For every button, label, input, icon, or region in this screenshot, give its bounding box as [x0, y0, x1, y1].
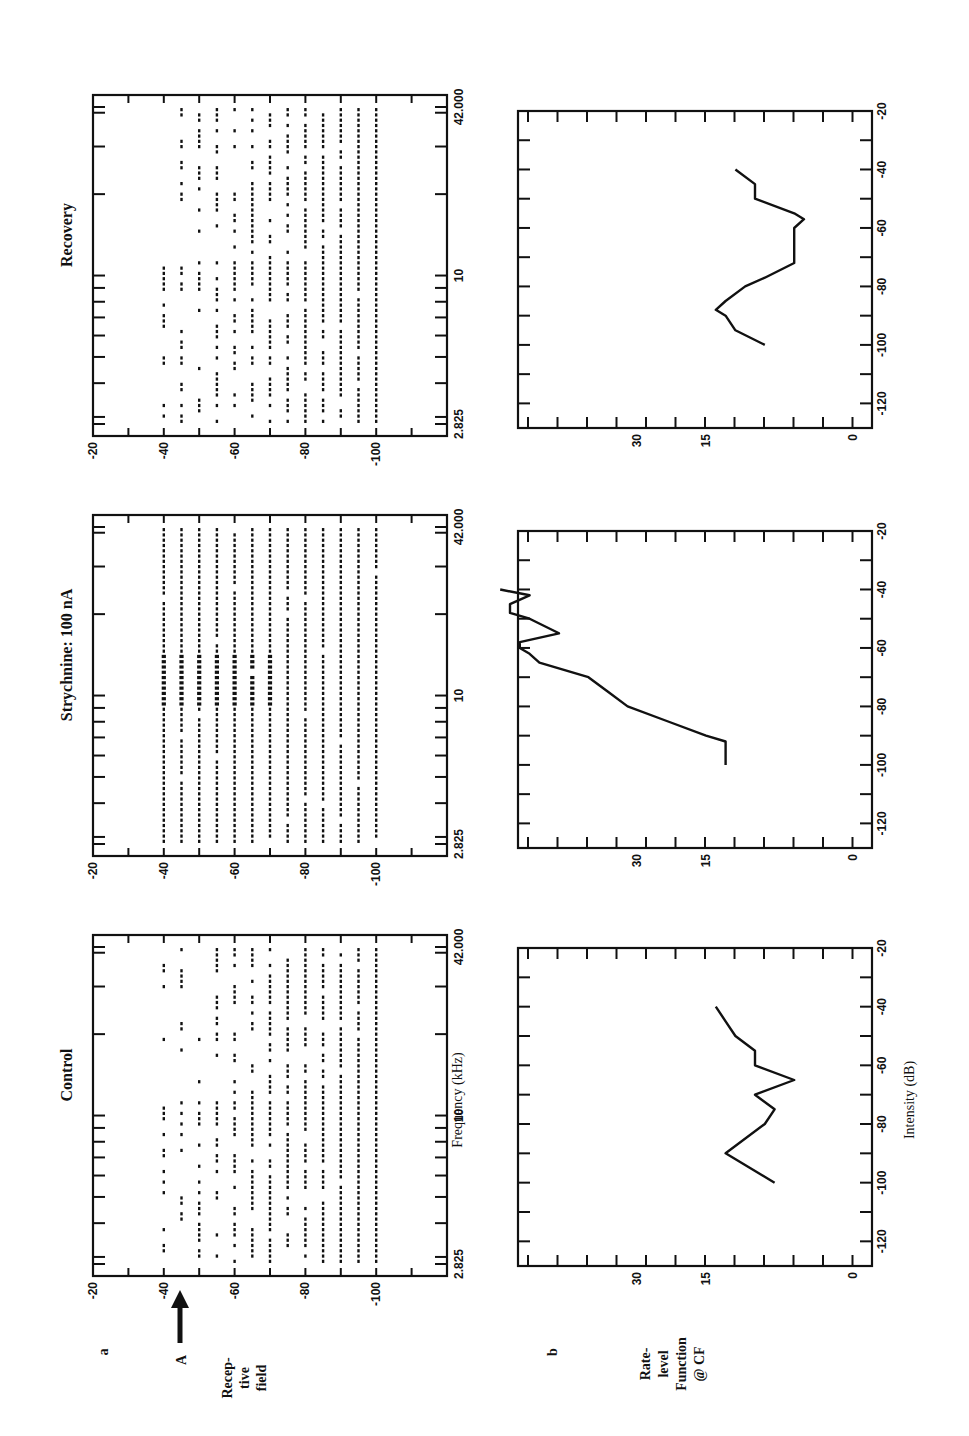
spike-dot — [375, 803, 377, 806]
spike-dot — [233, 319, 235, 322]
spike-dot — [357, 341, 359, 344]
spike-dot — [269, 1228, 271, 1231]
spike-dot — [340, 533, 342, 536]
spike-dot — [322, 219, 324, 222]
spike-dot — [216, 1101, 218, 1104]
spike-dot — [163, 1244, 165, 1247]
spike-dot — [340, 985, 342, 988]
spike-dot — [287, 528, 289, 531]
spike-dot — [375, 581, 377, 584]
spike-dot — [340, 330, 342, 333]
spike-dot — [322, 203, 324, 206]
spike-dot — [357, 1070, 359, 1073]
spike-dot — [357, 1181, 359, 1184]
spike-dot — [215, 676, 219, 679]
receptive-field-label: field — [254, 1365, 269, 1392]
spike-dot — [322, 964, 324, 967]
spike-dot — [322, 570, 324, 573]
spike-dot — [340, 628, 342, 631]
spike-dot — [322, 129, 324, 132]
spike-dot — [287, 581, 289, 584]
spike-dot — [375, 150, 377, 153]
spike-dot — [216, 829, 218, 832]
spike-dot — [180, 1217, 182, 1220]
spike-dot — [180, 623, 182, 626]
spike-dot — [322, 161, 324, 164]
spike-dot — [304, 639, 306, 642]
spike-dot — [287, 1212, 289, 1215]
spike-dot — [269, 113, 271, 116]
spike-dot — [180, 267, 182, 270]
spike-dot — [198, 718, 200, 721]
spike-dot — [287, 383, 289, 386]
spike-dot — [340, 665, 342, 668]
frequency-tick-label: 10 — [452, 269, 466, 283]
spike-dot — [322, 1101, 324, 1104]
spike-dot — [322, 383, 324, 386]
spike-dot — [322, 974, 324, 977]
spike-dot — [322, 834, 324, 837]
spike-dot — [340, 1254, 342, 1257]
spike-dot — [304, 156, 306, 159]
spike-dot — [322, 581, 324, 584]
spike-dot — [269, 581, 271, 584]
spike-dot — [340, 792, 342, 795]
spike-dot — [198, 129, 200, 132]
spike-dot — [180, 1048, 182, 1051]
spike-dot — [198, 1202, 200, 1205]
spike-dot — [340, 953, 342, 956]
intensity-tick-label: -20 — [86, 442, 100, 460]
spike-dot — [233, 819, 235, 822]
spike-dot — [269, 819, 271, 822]
spike-dot — [287, 829, 289, 832]
spike-dot — [162, 660, 166, 663]
spike-dot — [216, 224, 218, 227]
spike-dot — [340, 177, 342, 180]
spike-dot — [375, 1202, 377, 1205]
spike-dot — [304, 549, 306, 552]
spike-dot — [304, 586, 306, 589]
intensity-tick-label: -100 — [875, 753, 889, 777]
spike-dot — [198, 581, 200, 584]
spike-dot — [322, 388, 324, 391]
spike-dot — [304, 1085, 306, 1088]
spike-dot — [198, 734, 200, 737]
spike-dot — [357, 824, 359, 827]
spike-dot — [357, 161, 359, 164]
spike-dot — [357, 1017, 359, 1020]
spike-dot — [340, 134, 342, 137]
spike-dot — [180, 544, 182, 547]
spike-dot — [357, 996, 359, 999]
spike-dot — [180, 576, 182, 579]
spike-dot — [180, 539, 182, 542]
spike-dot — [162, 692, 166, 695]
spike-dot — [375, 1181, 377, 1184]
spike-dot — [180, 145, 182, 148]
spike-dot — [216, 808, 218, 811]
spike-dot — [179, 681, 183, 684]
spike-dot — [233, 824, 235, 827]
spike-dot — [197, 681, 201, 684]
spike-dot — [233, 554, 235, 557]
spike-dot — [375, 687, 377, 690]
spike-dot — [287, 586, 289, 589]
spike-dot — [216, 261, 218, 264]
spike-dot — [287, 1107, 289, 1110]
spike-dot — [198, 1191, 200, 1194]
spike-dot — [287, 113, 289, 116]
spike-dot — [375, 140, 377, 143]
spike-dot — [251, 166, 253, 169]
spike-dot — [340, 235, 342, 238]
spike-dot — [340, 367, 342, 370]
spike-dot — [375, 1101, 377, 1104]
spike-dot — [357, 948, 359, 951]
spike-dot — [357, 325, 359, 328]
spike-dot — [322, 829, 324, 832]
spike-dot — [216, 996, 218, 999]
spike-dot — [340, 549, 342, 552]
spike-dot — [180, 1027, 182, 1030]
spike-dot — [269, 618, 271, 621]
spike-dot — [179, 702, 183, 705]
spike-dot — [251, 766, 253, 769]
spike-dot — [375, 1233, 377, 1236]
